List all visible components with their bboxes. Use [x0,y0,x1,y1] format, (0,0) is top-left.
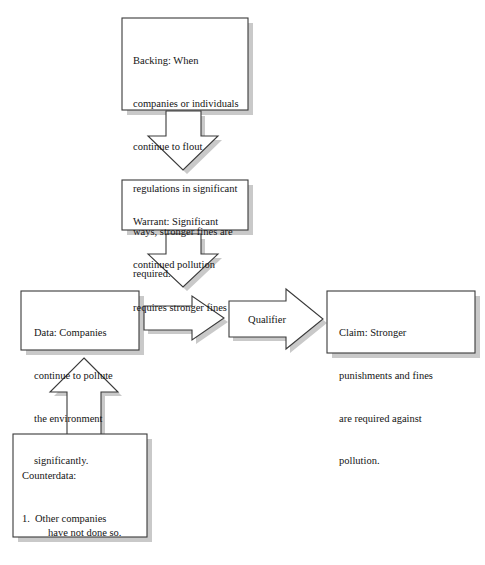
backing-line-3: continue to flout [133,140,243,154]
claim-box-text: Claim: Stronger punishments and fines ar… [339,298,469,483]
warrant-box-text: Warrant: Significant continued pollution… [133,187,243,329]
warrant-line-1: Warrant: Significant [133,215,243,229]
warrant-line-2: continued pollution [133,258,243,272]
claim-line-1: Claim: Stronger [339,326,469,340]
counterdata-item-1-line-1: Other companies [35,513,106,524]
claim-line-3: are required against [339,412,469,426]
backing-line-2: companies or individuals [133,97,243,111]
data-line-3: the environment [34,412,134,426]
counterdata-item-1-number: 1. [22,512,35,526]
counterdata-box-text: Counterdata: 1.Other companieshave not d… [22,441,144,565]
counterdata-item-1: 1.Other companieshave not done so. [22,512,144,540]
backing-line-1: Backing: When [133,54,243,68]
qualifier-label: Qualifier [236,313,298,327]
warrant-line-3: requires stronger fines [133,301,243,315]
data-line-1: Data: Companies [34,326,134,340]
data-line-2: continue to pollute [34,369,134,383]
counterdata-heading: Counterdata: [22,469,144,483]
claim-line-2: punishments and fines [339,369,469,383]
claim-line-4: pollution. [339,454,469,468]
counterdata-item-1-line-2: have not done so. [48,527,122,538]
